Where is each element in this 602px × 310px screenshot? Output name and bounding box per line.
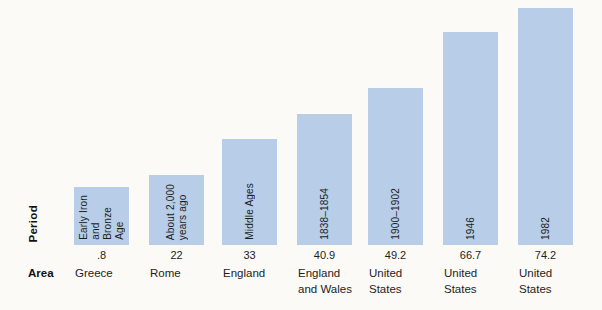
bar-period-label: 1900–1902 xyxy=(390,188,402,240)
bars-layer: Early Iron and Bronze Age.8GreeceAbout 2… xyxy=(0,0,602,310)
bar: 1946 xyxy=(443,32,498,245)
bar: About 2,000 years ago xyxy=(149,175,204,245)
bar: 1900–1902 xyxy=(368,88,423,245)
bar: Early Iron and Bronze Age xyxy=(74,187,129,245)
bar-value-label: 66.7 xyxy=(443,249,498,261)
bar-area-label: United States xyxy=(444,266,477,297)
bar: 1982 xyxy=(518,8,573,245)
bar-area-label: England and Wales xyxy=(298,266,352,297)
bar-value-label: 74.2 xyxy=(518,249,573,261)
bar-value-label: 22 xyxy=(149,249,204,261)
life-expectancy-bar-chart: Early Iron and Bronze Age.8GreeceAbout 2… xyxy=(0,0,602,310)
bar-area-label: Rome xyxy=(150,266,181,282)
bar-area-label: United States xyxy=(519,266,552,297)
bar-value-label: 40.9 xyxy=(297,249,352,261)
bar: 1838–1854 xyxy=(297,114,352,245)
bar-period-label: Middle Ages xyxy=(244,183,256,240)
bar-area-label: United States xyxy=(369,266,402,297)
bar-period-label: 1838–1854 xyxy=(319,188,331,240)
bar-area-label: Greece xyxy=(75,266,113,282)
bar-value-label: 49.2 xyxy=(368,249,423,261)
bar-area-label: England xyxy=(223,266,265,282)
area-row-header: Area xyxy=(28,267,54,279)
bar-period-label: Early Iron and Bronze Age xyxy=(78,195,126,240)
bar-value-label: .8 xyxy=(74,249,129,261)
bar-value-label: 33 xyxy=(222,249,277,261)
period-row-header: Period xyxy=(27,205,39,243)
bar-period-label: 1982 xyxy=(540,217,552,240)
bar-period-label: 1946 xyxy=(465,217,477,240)
bar-period-label: About 2,000 years ago xyxy=(165,184,189,240)
bar: Middle Ages xyxy=(222,139,277,245)
